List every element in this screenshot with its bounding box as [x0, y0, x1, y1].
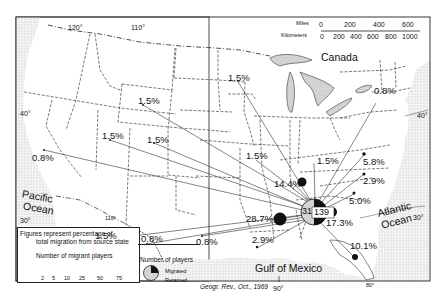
source-dot-mississippi — [274, 213, 287, 226]
flow-label: 17.3% — [326, 218, 353, 228]
scale-km-400: 400 — [350, 33, 362, 40]
legend-size-2: 2 — [41, 276, 44, 282]
scale-mile-400: 400 — [373, 21, 385, 28]
source-dot-louisiana — [256, 246, 258, 248]
flow-label: 1.5% — [138, 96, 160, 106]
lake-superior — [270, 54, 312, 66]
scale-km-0: 0 — [320, 33, 324, 40]
scale-km-200: 200 — [333, 33, 345, 40]
flow-label: 14.4% — [274, 179, 301, 189]
latitude-40-west: 40° — [20, 110, 31, 117]
legend-sizes-title: Number of migrant players — [36, 253, 113, 260]
source-dot-florida — [352, 254, 358, 260]
legend-size-50: 50 — [97, 276, 103, 282]
flow-label: 1.5% — [246, 151, 268, 161]
flow-label: 10.1% — [350, 241, 377, 251]
flow-label: 2.9% — [363, 176, 385, 186]
lake-michigan — [287, 72, 295, 112]
latitude-30-west: 30° — [20, 217, 31, 224]
lake-huron — [300, 72, 334, 106]
legend-pie-title: Number of players — [140, 257, 193, 264]
legend-size-25: 25 — [79, 276, 85, 282]
flow-label: 0.8% — [374, 86, 396, 96]
flow-label: 0.8% — [141, 234, 163, 244]
legend-line2: total migration from source state — [36, 239, 129, 246]
latitude-40-east: 40° — [417, 112, 428, 119]
legend-pie-retained: Retained — [165, 278, 187, 284]
destination-migrated: 139 — [314, 208, 329, 217]
legend-size-75: 75 — [116, 276, 122, 282]
flow-label: 28.7% — [246, 214, 273, 224]
flow-label: 2.9% — [252, 235, 274, 245]
source-citation: Geogr. Rev., Oct., 1969 — [200, 284, 268, 291]
longitude-120: 120° — [68, 24, 82, 31]
scale-km-1000: 1000 — [402, 33, 418, 40]
legend-line1: Figures represent percentage of — [20, 231, 113, 238]
destination-retained: 31 — [302, 207, 312, 216]
longitude-110-south: 110° — [105, 216, 116, 222]
lake-ontario — [356, 85, 372, 93]
flow-label: 5.0% — [349, 196, 371, 206]
legend-size-5: 5 — [52, 276, 55, 282]
scale-mile-200: 200 — [344, 21, 356, 28]
legend-size-10: 10 — [64, 276, 70, 282]
longitude-110: 110° — [131, 24, 145, 31]
flow-label: 1.5% — [102, 131, 124, 141]
label-gulf-of-mexico: Gulf of Mexico — [255, 263, 322, 274]
flow-label: 0.8% — [32, 153, 54, 163]
scale-mile-0: 0 — [319, 21, 323, 28]
longitude-90: 90° — [273, 285, 284, 292]
flow-label: 1.5% — [228, 73, 250, 83]
longitude-80: 80° — [366, 283, 374, 289]
flow-label: 0.8% — [196, 237, 218, 247]
scale-km-label: Kilometers — [281, 33, 307, 39]
flow-label: 1.5% — [147, 135, 169, 145]
scale-km-800: 800 — [385, 33, 397, 40]
scale-mile-600: 600 — [402, 21, 414, 28]
flow-label: 1.5% — [317, 156, 339, 166]
legend-pie-migrated: Migrated — [165, 269, 186, 275]
scale-km-600: 600 — [367, 33, 379, 40]
lake-erie — [326, 98, 352, 116]
label-canada: Canada — [321, 52, 358, 63]
scale-miles-label: Miles — [296, 21, 309, 27]
latitude-30-east: 30° — [413, 214, 424, 221]
flow-label: 5.8% — [363, 157, 385, 167]
